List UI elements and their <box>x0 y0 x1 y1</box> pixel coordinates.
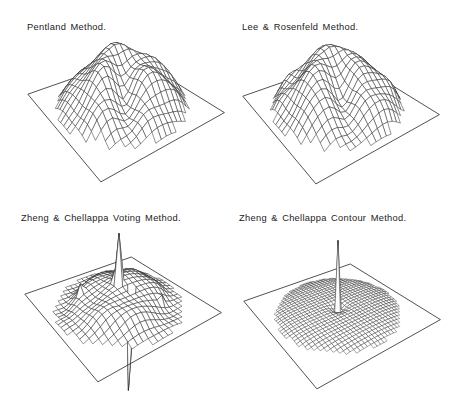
surface-plots <box>0 0 463 407</box>
panel-title-pentland: Pentland Method. <box>27 23 106 32</box>
figure-canvas: Pentland Method. Lee & Rosenfeld Method.… <box>0 0 463 407</box>
panel-zc-voting-plot <box>25 233 222 390</box>
panel-lee-rosenfeld-plot <box>243 45 440 184</box>
panel-title-lee-rosenfeld: Lee & Rosenfeld Method. <box>242 23 358 32</box>
panel-title-zc-contour: Zheng & Chellappa Contour Method. <box>239 214 406 223</box>
panel-zc-contour-plot <box>244 240 441 389</box>
panel-pentland-plot <box>28 42 225 182</box>
panel-title-zc-voting: Zheng & Chellappa Voting Method. <box>21 214 181 223</box>
